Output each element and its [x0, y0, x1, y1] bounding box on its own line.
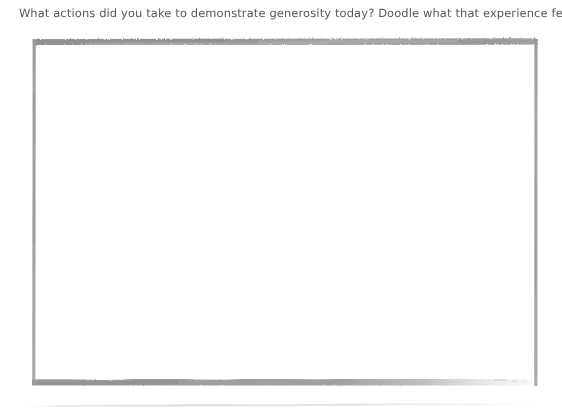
faint-baseline-rule — [0, 396, 562, 412]
prompt-question-text: What actions did you take to demonstrate… — [19, 6, 554, 21]
doodle-drawing-area[interactable] — [37, 45, 533, 379]
worksheet-page: What actions did you take to demonstrate… — [0, 0, 562, 417]
